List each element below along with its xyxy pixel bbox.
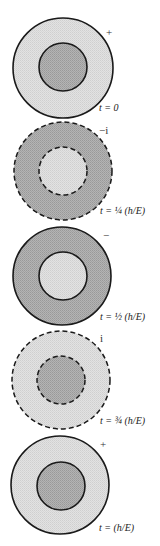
time-label: t = 0 [99, 102, 119, 113]
time-label: t = ¼ (h/E) [100, 205, 146, 217]
inner-disk [37, 462, 85, 510]
panel-t-half: − t = ½ (h/E) [13, 227, 146, 325]
panel-t-three-quarter: i t = ¾ (h/E) [12, 331, 146, 429]
panel-t-quarter: −i t = ¼ (h/E) [14, 122, 146, 220]
time-label: t = (h/E) [99, 522, 135, 534]
time-label: t = ½ (h/E) [100, 311, 146, 323]
inner-disk [39, 252, 87, 300]
phase-label: + [106, 26, 112, 38]
time-label: t = ¾ (h/E) [100, 415, 146, 427]
phase-label: i [100, 332, 103, 344]
wavefunction-phase-diagram: + t = 0 −i t = ¼ (h/E) − t = ½ (h/E) i t… [0, 0, 160, 546]
inner-disk [39, 147, 87, 195]
phase-label: − [103, 229, 109, 241]
inner-disk [39, 43, 87, 91]
panel-t-full: + t = (h/E) [11, 436, 135, 534]
phase-label: + [100, 438, 106, 450]
inner-disk [37, 356, 85, 404]
panel-t0: + t = 0 [13, 18, 119, 118]
phase-label: −i [99, 124, 108, 136]
